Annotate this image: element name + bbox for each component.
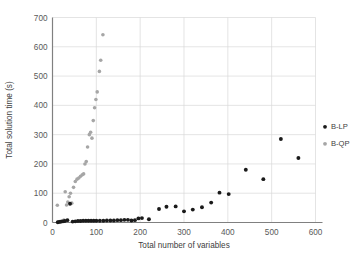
y-tick-label: 0 [43, 219, 48, 228]
legend-label-b-qp: B-QP [331, 139, 350, 148]
data-point [56, 203, 60, 207]
data-point [182, 209, 186, 213]
y-tick-label: 600 [34, 43, 48, 52]
series-b-lp [56, 137, 301, 224]
data-point [63, 190, 67, 194]
x-tick-label: 100 [89, 228, 103, 237]
y-tick-label: 500 [34, 72, 48, 81]
data-point [82, 172, 86, 176]
data-point [98, 219, 102, 223]
data-point [119, 218, 123, 222]
data-point [165, 205, 169, 209]
data-point [129, 219, 133, 223]
data-point [147, 217, 151, 221]
data-point [136, 216, 140, 220]
data-point [68, 202, 72, 206]
data-point [67, 195, 71, 199]
y-axis-title: Total solution time (s) [5, 81, 14, 159]
data-point [86, 145, 90, 149]
data-point [72, 186, 76, 190]
data-point [126, 218, 130, 222]
data-point [89, 131, 93, 135]
data-point [191, 208, 195, 212]
data-point [69, 191, 73, 195]
x-axis-tick-labels: 0100200300400500600 [50, 228, 323, 237]
x-tick-label: 500 [265, 228, 279, 237]
legend-marker-b-lp [323, 125, 327, 129]
x-tick-label: 300 [177, 228, 191, 237]
data-point [209, 201, 213, 205]
x-tick-label: 600 [309, 228, 323, 237]
x-axis-title: Total number of variables [138, 241, 229, 250]
data-point [108, 219, 112, 223]
series-b-qp [56, 33, 105, 224]
data-point [91, 119, 95, 123]
legend-marker-b-qp [323, 142, 327, 146]
data-point [115, 218, 119, 222]
data-point [105, 219, 109, 223]
y-tick-label: 400 [34, 101, 48, 110]
data-point [101, 219, 105, 223]
data-point [157, 207, 161, 211]
y-tick-label: 200 [34, 160, 48, 169]
data-point [200, 205, 204, 209]
y-axis-tick-labels: 0100200300400500600700 [34, 14, 48, 228]
data-point [244, 168, 248, 172]
y-tick-label: 700 [34, 14, 48, 23]
data-point [218, 191, 222, 195]
data-point [90, 136, 94, 140]
x-tick-label: 200 [133, 228, 147, 237]
data-point [93, 106, 97, 110]
data-point [227, 192, 231, 196]
legend: B-LPB-QP [323, 122, 349, 148]
data-point [261, 177, 265, 181]
data-point [140, 216, 144, 220]
data-point [279, 137, 283, 141]
data-point [174, 204, 178, 208]
scatter-chart: 0100200300400500600700010020030040050060… [0, 0, 357, 271]
data-point [84, 160, 88, 164]
data-point [133, 218, 137, 222]
data-point [94, 219, 98, 223]
data-point [98, 70, 102, 74]
data-point [99, 58, 103, 62]
y-tick-label: 300 [34, 131, 48, 140]
x-tick-label: 0 [50, 228, 55, 237]
figure-container: 0100200300400500600700010020030040050060… [0, 0, 357, 271]
data-point [296, 156, 300, 160]
data-point [65, 218, 69, 222]
data-point [94, 98, 98, 102]
y-tick-label: 100 [34, 189, 48, 198]
data-point [101, 33, 105, 37]
x-tick-label: 400 [221, 228, 235, 237]
data-point [122, 218, 126, 222]
legend-label-b-lp: B-LP [331, 122, 348, 131]
data-point [112, 219, 116, 223]
data-point [95, 90, 99, 94]
